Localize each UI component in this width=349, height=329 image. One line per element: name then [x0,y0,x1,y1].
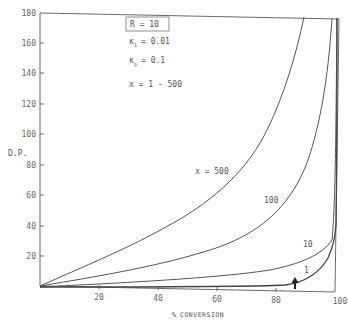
x-axis-title-prefix: % [172,311,177,319]
x-tick-20: 20 [94,293,104,302]
y-tick-180: 180 [22,9,37,18]
dp-vs-conversion-chart: 180 160 140 120 100 80 60 40 20 20 40 60… [0,0,349,329]
y-tick-160: 160 [22,39,37,48]
kp-subscript: p [134,61,137,68]
curve-x-100 [40,18,332,286]
y-axis-title: D.P. [8,149,27,158]
curve-label-500: x = 500 [195,167,229,176]
y-tick-140: 140 [22,69,37,78]
x-range-label: x = 1 - 500 [129,80,182,89]
x-tick-60: 60 [212,295,222,304]
curve-x-10 [40,18,337,287]
k1-subscript: 1 [134,42,137,48]
y-tick-80: 80 [26,161,36,170]
y-tick-20: 20 [26,252,36,261]
arrow-up-icon [292,277,299,289]
plot-frame [40,13,339,292]
y-tick-100: 100 [22,130,37,139]
curve-label-10: 10 [303,240,313,249]
y-tick-labels: 180 160 140 120 100 80 60 40 20 [22,9,37,261]
k1-value: = 0.01 [141,37,170,46]
curve-x-1 [40,18,337,287]
curve-x-500 [40,17,304,286]
y-axis [40,43,44,256]
x-axis-title: Conversion [180,311,224,319]
x-tick-labels: 20 40 60 80 100 [94,293,347,306]
x-tick-40: 40 [153,294,163,303]
curve-label-1: 1 [304,266,309,275]
curve-label-100: 100 [264,196,279,205]
y-tick-120: 120 [22,100,37,109]
kp-value: = 0.1 [141,56,165,65]
x-tick-100: 100 [333,297,348,306]
r-value-label: R = 10 [130,20,159,29]
y-tick-40: 40 [26,222,36,231]
y-tick-60: 60 [26,191,36,200]
x-tick-80: 80 [271,296,281,305]
